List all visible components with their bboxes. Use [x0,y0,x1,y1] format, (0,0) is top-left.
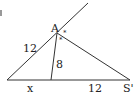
extended-side-line [7,3,88,80]
vertex-a-label: A [51,23,59,34]
vertex-s-prime-label: S' [123,83,134,94]
base-left-variable-label: x [27,83,33,94]
base-right-length-label: 12 [88,83,102,94]
triangle-diagram [0,0,136,97]
left-side-length-label: 12 [23,43,37,54]
angle-mark-upper: * [63,30,67,37]
angle-bisector [51,33,57,80]
side-a-s-prime [57,33,130,80]
bisector-length-label: 8 [56,59,63,70]
angle-mark-lower: * [59,37,63,44]
partial-label-fragment [0,10,2,16]
